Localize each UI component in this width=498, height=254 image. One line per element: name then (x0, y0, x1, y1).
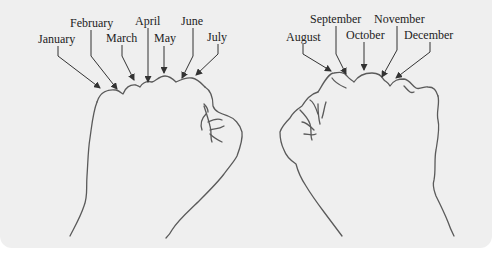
label-february: February (70, 16, 113, 30)
label-april: April (135, 14, 160, 28)
label-may: May (154, 31, 176, 45)
label-october: October (346, 28, 385, 42)
arrow-march (122, 45, 134, 80)
label-july: July (207, 30, 227, 44)
label-september: September (310, 12, 361, 26)
label-june: June (181, 14, 203, 28)
label-december: December (404, 28, 453, 42)
label-november: November (374, 12, 425, 26)
label-january: January (38, 32, 75, 46)
right-fist-outline (280, 72, 454, 236)
arrow-december (396, 42, 430, 78)
arrow-september (336, 26, 346, 74)
arrow-june (182, 28, 193, 78)
left-fist-arrows (58, 28, 218, 89)
arrow-july (196, 44, 218, 75)
left-fist-outline (70, 76, 242, 238)
arrow-january (58, 46, 100, 88)
label-august: August (286, 30, 321, 44)
diagram-canvas: January February March April May June Ju… (0, 0, 498, 254)
arrow-august (303, 44, 331, 71)
label-march: March (106, 31, 137, 45)
